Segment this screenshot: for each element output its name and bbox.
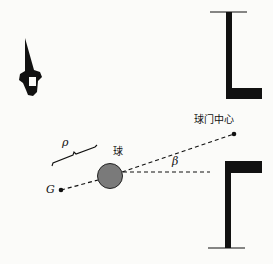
goal-post-top xyxy=(210,12,262,99)
ball-label: 球 xyxy=(113,143,123,158)
ball-circle xyxy=(98,164,123,189)
goal-post-bottom xyxy=(208,161,262,248)
g-label: G xyxy=(46,183,55,196)
beta-label: β xyxy=(172,155,178,168)
diagram-graphics xyxy=(0,0,273,264)
goal-center-label: 球门中心 xyxy=(194,111,234,126)
g-point xyxy=(59,188,64,193)
robot-icon xyxy=(19,38,42,96)
rho-label: ρ xyxy=(62,136,68,149)
goal-center-dot xyxy=(232,132,237,137)
diagram-canvas: 球门中心 球 ρ β G xyxy=(0,0,273,264)
g-to-ball-line xyxy=(61,180,98,190)
rho-brace xyxy=(52,145,97,166)
